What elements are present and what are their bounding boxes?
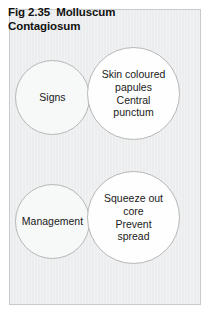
figure-root: Fig 2.35 Molluscum Contagiosum Signs Ski… [0, 0, 212, 314]
circle-management-detail-label: Squeeze out core Prevent spread [94, 192, 172, 242]
circle-management-detail: Squeeze out core Prevent spread [87, 171, 180, 264]
circle-signs-label: Signs [16, 91, 89, 104]
circle-signs: Signs [15, 60, 90, 135]
venn-group-management: Management Squeeze out core Prevent spre… [0, 170, 190, 274]
venn-group-signs: Signs Skin coloured papules Central punc… [0, 46, 190, 150]
circle-management-label: Management [16, 215, 89, 228]
circle-management: Management [15, 184, 90, 259]
circle-signs-detail-label: Skin coloured papules Central punctum [94, 68, 172, 118]
circle-signs-detail: Skin coloured papules Central punctum [87, 47, 180, 140]
figure-title: Fig 2.35 Molluscum Contagiosum [8, 5, 184, 33]
